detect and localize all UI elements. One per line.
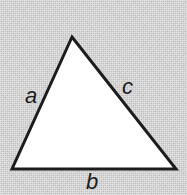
- triangle-figure: a c b: [0, 0, 187, 195]
- side-label-a: a: [25, 85, 37, 107]
- side-label-b: b: [86, 171, 98, 193]
- side-label-c: c: [122, 76, 133, 98]
